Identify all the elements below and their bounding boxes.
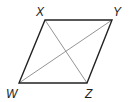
vertex-label-w: W bbox=[6, 87, 19, 101]
vertex-label-z: Z bbox=[84, 87, 93, 101]
parallelogram-diagram: X Y W Z bbox=[0, 0, 132, 102]
vertex-label-x: X bbox=[35, 5, 45, 19]
vertex-label-y: Y bbox=[113, 5, 122, 19]
diagonal-wy bbox=[19, 20, 112, 83]
